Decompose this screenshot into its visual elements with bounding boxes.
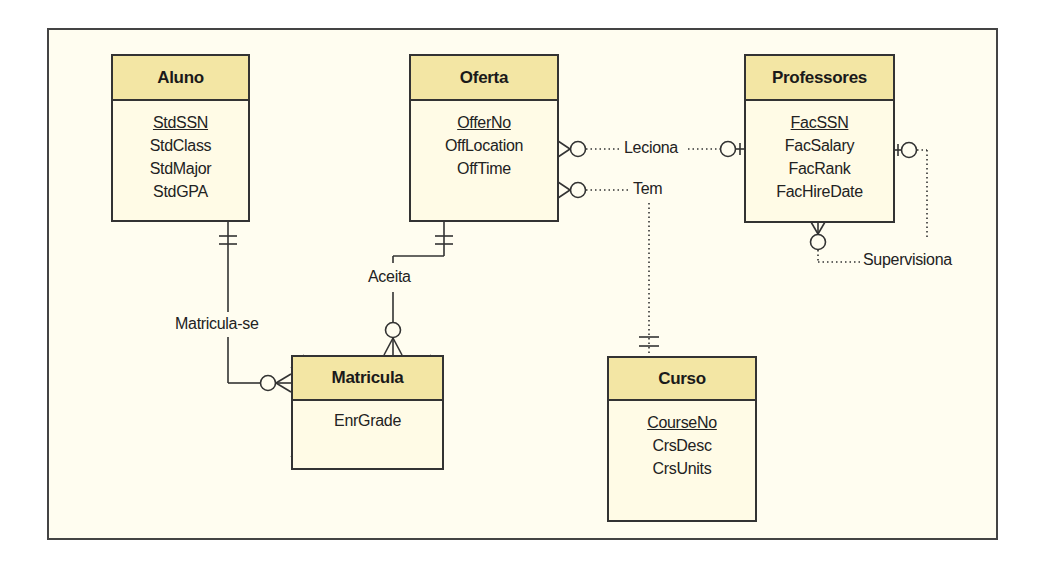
entity-title: Aluno bbox=[113, 56, 248, 101]
attribute: FacRank bbox=[746, 157, 893, 180]
entity-attributes: CourseNo CrsDesc CrsUnits bbox=[609, 401, 755, 480]
relationship-label-matricula-se: Matricula-se bbox=[175, 315, 259, 333]
entity-title: Professores bbox=[746, 56, 893, 101]
entity-attributes: StdSSN StdClass StdMajor StdGPA bbox=[113, 101, 248, 203]
entity-matricula[interactable]: Matricula EnrGrade bbox=[291, 355, 444, 470]
entity-oferta[interactable]: Oferta OfferNo OffLocation OffTime bbox=[409, 54, 559, 222]
attribute: OffLocation bbox=[411, 134, 557, 157]
attribute: StdClass bbox=[113, 134, 248, 157]
attribute-primary-key: CourseNo bbox=[609, 411, 755, 434]
entity-attributes: FacSSN FacSalary FacRank FacHireDate bbox=[746, 101, 893, 203]
entity-attributes: OfferNo OffLocation OffTime bbox=[411, 101, 557, 180]
attribute: FacHireDate bbox=[746, 180, 893, 203]
attribute: EnrGrade bbox=[293, 409, 442, 432]
attribute: CrsDesc bbox=[609, 434, 755, 457]
attribute-primary-key: FacSSN bbox=[746, 111, 893, 134]
relationship-label-tem: Tem bbox=[633, 180, 662, 198]
relationship-label-supervisiona: Supervisiona bbox=[863, 251, 952, 269]
relationship-label-leciona: Leciona bbox=[624, 139, 678, 157]
attribute: StdMajor bbox=[113, 157, 248, 180]
attribute-primary-key: StdSSN bbox=[113, 111, 248, 134]
attribute: StdGPA bbox=[113, 180, 248, 203]
attribute: CrsUnits bbox=[609, 457, 755, 480]
entity-professores[interactable]: Professores FacSSN FacSalary FacRank Fac… bbox=[744, 54, 895, 223]
entity-title: Matricula bbox=[293, 357, 442, 401]
entity-attributes: EnrGrade bbox=[293, 401, 442, 468]
relationship-label-aceita: Aceita bbox=[368, 268, 411, 286]
attribute-primary-key: OfferNo bbox=[411, 111, 557, 134]
attribute: FacSalary bbox=[746, 134, 893, 157]
entity-curso[interactable]: Curso CourseNo CrsDesc CrsUnits bbox=[607, 356, 757, 522]
entity-title: Oferta bbox=[411, 56, 557, 101]
entity-aluno[interactable]: Aluno StdSSN StdClass StdMajor StdGPA bbox=[111, 54, 250, 222]
attribute: OffTime bbox=[411, 157, 557, 180]
entity-title: Curso bbox=[609, 358, 755, 401]
